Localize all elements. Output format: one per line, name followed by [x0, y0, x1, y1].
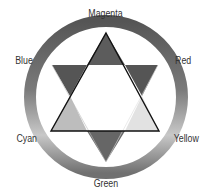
label-yellow: Yellow: [174, 133, 199, 145]
segment-red: [125, 65, 158, 96]
segment-green: [87, 131, 125, 162]
label-magenta: Magenta: [88, 8, 122, 20]
segment-yellow: [125, 96, 159, 131]
label-cyan: Cyan: [16, 133, 37, 145]
segment-magenta: [87, 33, 125, 65]
label-red: Red: [175, 55, 191, 67]
label-green: Green: [94, 178, 118, 190]
color-wheel-diagram: [0, 0, 212, 195]
label-blue: Blue: [15, 55, 33, 67]
segment-blue: [52, 65, 87, 96]
segment-cyan: [51, 96, 87, 131]
